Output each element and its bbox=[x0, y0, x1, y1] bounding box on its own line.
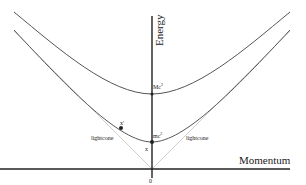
point-x-prime-label: x' bbox=[120, 120, 124, 126]
energy-axis-label: Energy bbox=[153, 14, 165, 46]
point-Mc2 bbox=[151, 93, 154, 96]
point-x-prime bbox=[119, 126, 123, 130]
lightcone-right-label: lightcone bbox=[186, 135, 209, 141]
origin-label: 0 bbox=[149, 178, 152, 184]
energy-momentum-diagram: Energy Momentum 0 Mc2 mc2 x' x lightcone… bbox=[0, 0, 306, 185]
Mc2-label: Mc2 bbox=[153, 82, 163, 90]
momentum-axis-label: Momentum bbox=[239, 154, 291, 166]
point-x bbox=[150, 140, 154, 144]
lightcone-left-label: lightcone bbox=[91, 135, 114, 141]
point-x-label: x bbox=[145, 146, 148, 152]
mc2-label: mc2 bbox=[153, 131, 162, 139]
